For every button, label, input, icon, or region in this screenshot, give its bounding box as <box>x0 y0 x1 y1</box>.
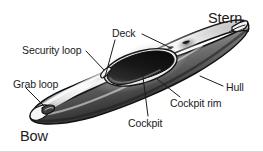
label-cockpit-rim: Cockpit rim <box>170 98 221 109</box>
leader-security-loop <box>86 51 104 70</box>
label-grab-loop: Grab loop <box>13 79 58 90</box>
leader-grab-loop <box>26 88 44 106</box>
leader-hull <box>200 76 223 86</box>
label-cockpit: Cockpit <box>128 118 162 129</box>
label-security-loop: Security loop <box>22 45 81 56</box>
label-hull: Hull <box>226 82 244 93</box>
label-deck: Deck <box>112 28 136 39</box>
kayak-diagram-figure: Deck Stern Security loop Grab loop Bow C… <box>0 0 263 152</box>
label-stern: Stern <box>208 11 242 26</box>
label-bow: Bow <box>20 129 48 144</box>
